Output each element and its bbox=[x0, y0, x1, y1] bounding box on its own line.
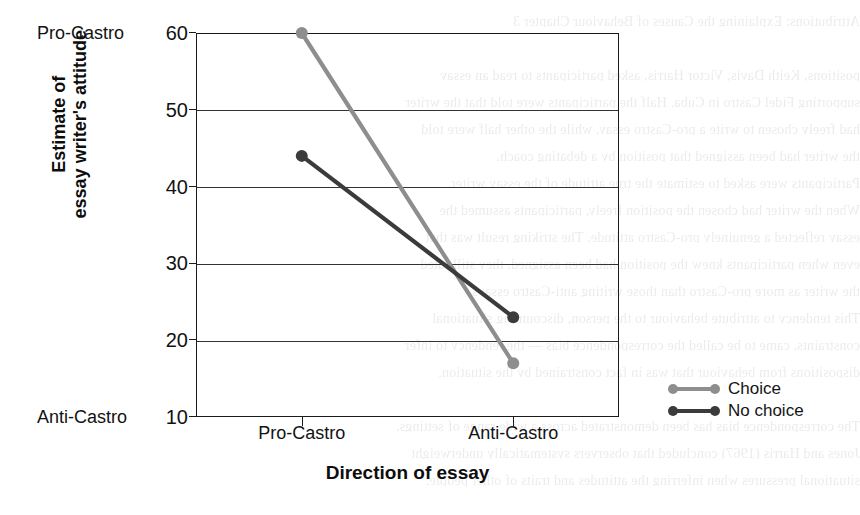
legend-item-no-choice[interactable]: No choice bbox=[668, 400, 853, 422]
legend-item-choice[interactable]: Choice bbox=[668, 378, 853, 400]
series-line bbox=[302, 156, 514, 317]
data-point-1-0 bbox=[296, 150, 308, 162]
chart-legend: ChoiceNo choice bbox=[668, 378, 853, 422]
series-no-choice bbox=[296, 150, 520, 323]
legend-ldotr bbox=[710, 384, 720, 394]
legend-ldotr bbox=[710, 406, 720, 416]
legend-swatch-icon bbox=[668, 382, 720, 396]
legend-label: No choice bbox=[720, 401, 804, 421]
legend-swatch-icon bbox=[668, 404, 720, 418]
data-point-1-1 bbox=[507, 311, 519, 323]
data-point-0-1 bbox=[507, 357, 519, 369]
series-choice bbox=[296, 27, 520, 369]
legend-label: Choice bbox=[720, 379, 781, 399]
legend-ldotl bbox=[668, 406, 678, 416]
legend-ldotl bbox=[668, 384, 678, 394]
data-point-0-0 bbox=[296, 27, 308, 39]
series-line bbox=[302, 33, 514, 363]
chart-figure: Estimate of essay writer's attitude Pro-… bbox=[0, 0, 860, 515]
data-series-layer bbox=[0, 0, 860, 515]
